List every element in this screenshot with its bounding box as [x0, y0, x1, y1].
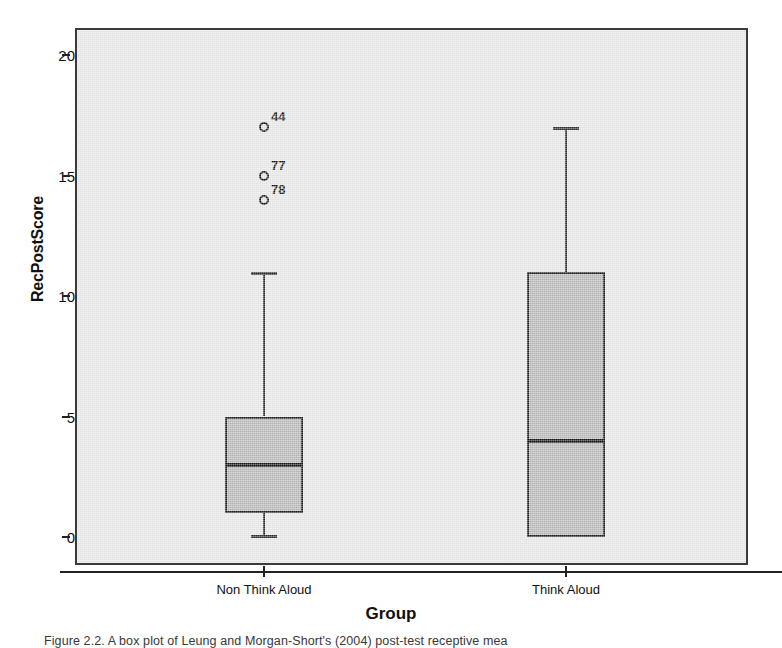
x-axis-line	[60, 571, 782, 573]
y-axis: RecPostScore 05101520	[0, 0, 75, 648]
upper-whisker-cap	[553, 127, 579, 130]
x-tick-label: Non Think Aloud	[216, 582, 311, 597]
plot-area: 447778	[75, 28, 748, 565]
figure-caption: Figure 2.2. A box plot of Leung and Morg…	[44, 634, 782, 648]
y-tick-mark	[62, 54, 70, 56]
y-tick-mark	[62, 175, 70, 177]
y-tick-mark	[62, 536, 70, 538]
upper-whisker-line	[565, 127, 567, 272]
box-iqr-rect	[527, 272, 605, 537]
x-axis-title: Group	[0, 604, 782, 624]
box-plot-group	[77, 30, 746, 563]
y-axis-title: RecPostScore	[29, 169, 47, 329]
x-tick-mark	[565, 566, 567, 577]
box-plot-figure: RecPostScore 05101520 447778 Non Think A…	[0, 0, 782, 648]
y-tick-mark	[62, 295, 70, 297]
x-tick-mark	[263, 566, 265, 577]
median-line	[527, 439, 605, 443]
x-tick-label: Think Aloud	[532, 582, 600, 597]
y-tick-mark	[62, 416, 70, 418]
